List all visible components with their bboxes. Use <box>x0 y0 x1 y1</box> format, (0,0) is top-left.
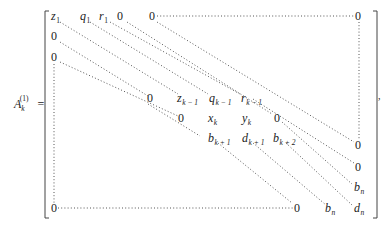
entry-dn: dn <box>354 202 364 219</box>
entry-z-k-minus-1: zk − 1 <box>177 92 198 109</box>
entry-zero: 0 <box>355 10 361 22</box>
left-bracket <box>45 11 49 218</box>
entry-zero: 0 <box>51 202 57 214</box>
trailing-comma: , <box>378 90 381 101</box>
entry-zero: 0 <box>51 30 57 42</box>
equals-sign: = <box>37 97 44 111</box>
right-bracket <box>373 11 377 218</box>
entry-r-k-minus-1: rk − 1 <box>241 92 262 109</box>
entry-xk: xk <box>208 112 217 129</box>
entry-zero: 0 <box>178 112 184 124</box>
entry-bn: bn <box>325 202 335 219</box>
matrix-equation: Ak(1) = z1 q1 r1 0 0 0 0 0 0 zk − 1 qk −… <box>0 0 386 227</box>
entry-b-k-plus-2: bk + 2 <box>273 132 295 149</box>
entry-q1: q1 <box>80 10 90 27</box>
entry-yk: yk <box>242 112 251 129</box>
matrix-subscript: k <box>21 104 24 113</box>
matrix-label: Ak(1) = <box>14 94 44 113</box>
entry-r1: r1 <box>99 10 108 27</box>
entry-q-k-minus-1: qk − 1 <box>209 92 231 109</box>
entry-zero: 0 <box>117 10 123 22</box>
entry-zero: 0 <box>355 161 361 173</box>
matrix-lines <box>0 0 386 227</box>
entry-b-k-plus-1: bk + 1 <box>208 132 230 149</box>
entry-bn: bn <box>354 181 364 198</box>
entry-zero: 0 <box>51 51 57 63</box>
entry-z1: z1 <box>51 10 60 27</box>
entry-zero: 0 <box>294 202 300 214</box>
entry-zero: 0 <box>147 92 153 104</box>
entry-zero: 0 <box>355 139 361 151</box>
matrix-superscript: (1) <box>20 94 29 103</box>
entry-zero: 0 <box>149 10 155 22</box>
entry-zero: 0 <box>274 112 280 124</box>
entry-d-k-plus-1: dk + 1 <box>242 132 264 149</box>
